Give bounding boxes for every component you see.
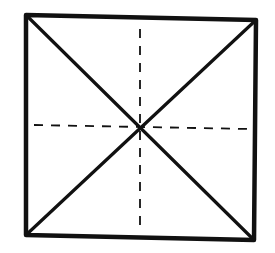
diagram-canvas <box>0 0 275 253</box>
folding-square-diagram <box>0 0 275 253</box>
